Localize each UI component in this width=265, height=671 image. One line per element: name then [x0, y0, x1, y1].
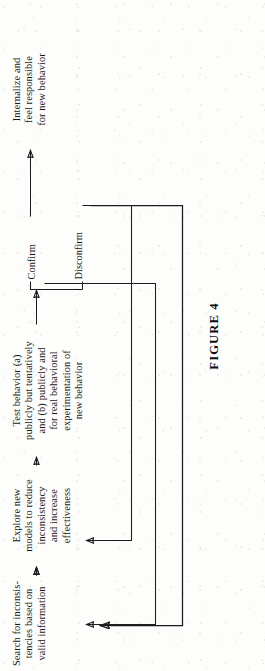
figure-stage: Search for inconsis- tencies based on va… — [0, 0, 265, 671]
node-internalize-and-feel-responsible: Internalize and feel responsible for new… — [10, 37, 47, 141]
figure-page: Search for inconsis- tencies based on va… — [0, 0, 265, 671]
figure-caption: FIGURE 4 — [206, 0, 221, 671]
node-test-behavior: Test behavior (a) publicly but tentative… — [10, 327, 84, 453]
node-explore-new-models: Explore new models to reduce inconsisten… — [10, 467, 72, 563]
node-search-for-inconsistencies: Search for inconsis- tencies based on va… — [10, 577, 47, 669]
edge-disconfirm-to-explore — [82, 205, 131, 540]
edge-disconfirm-to-search-outer — [90, 205, 182, 625]
branch-label-confirm: Confirm — [25, 244, 37, 279]
branch-label-disconfirm: Disconfirm — [72, 232, 84, 279]
